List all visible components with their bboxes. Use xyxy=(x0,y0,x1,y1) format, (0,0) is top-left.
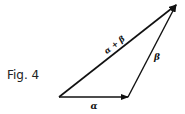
vector-triangle-diagram: α β α + β xyxy=(0,0,185,114)
vector-beta-label: β xyxy=(153,52,160,62)
vector-beta-arrow xyxy=(128,5,176,97)
vector-sum-arrow xyxy=(59,5,176,97)
vector-alpha-label: α xyxy=(91,101,98,111)
